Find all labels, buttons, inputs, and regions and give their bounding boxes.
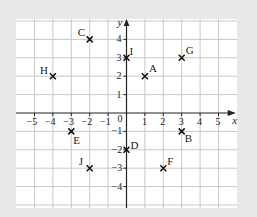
y-tick-label: 4 bbox=[117, 34, 122, 44]
x-tick-label: 3 bbox=[179, 117, 184, 127]
point-label-i: I bbox=[130, 46, 134, 57]
y-tick-label: −2 bbox=[112, 145, 123, 155]
y-tick-label: 2 bbox=[117, 71, 122, 81]
y-tick-label: −4 bbox=[112, 182, 123, 192]
x-tick-label: −5 bbox=[27, 117, 38, 127]
point-label-h: H bbox=[40, 65, 48, 76]
x-tick-label: −1 bbox=[100, 117, 111, 127]
point-label-a: A bbox=[149, 63, 157, 74]
x-tick-label: −4 bbox=[45, 117, 56, 127]
point-label-d: D bbox=[131, 140, 139, 151]
point-label-f: F bbox=[167, 156, 173, 167]
coordinate-grid bbox=[0, 0, 257, 217]
x-axis-label: x bbox=[232, 115, 237, 126]
point-label-g: G bbox=[186, 45, 194, 56]
x-tick-label: −2 bbox=[82, 117, 93, 127]
x-tick-label: 5 bbox=[216, 117, 221, 127]
y-tick-label: −3 bbox=[112, 163, 123, 173]
y-axis-label: y bbox=[118, 17, 123, 28]
point-label-b: B bbox=[185, 133, 192, 144]
point-label-e: E bbox=[73, 135, 80, 146]
point-label-j: J bbox=[79, 156, 83, 167]
point-label-c: C bbox=[78, 27, 85, 38]
x-tick-label: −3 bbox=[63, 117, 74, 127]
x-tick-label: 2 bbox=[160, 117, 165, 127]
y-tick-label: 1 bbox=[117, 90, 122, 100]
y-tick-label: 3 bbox=[117, 53, 122, 63]
y-tick-label: −1 bbox=[112, 126, 123, 136]
origin-label: 0 bbox=[118, 114, 123, 124]
x-tick-label: 1 bbox=[142, 117, 147, 127]
x-tick-label: 4 bbox=[197, 117, 202, 127]
